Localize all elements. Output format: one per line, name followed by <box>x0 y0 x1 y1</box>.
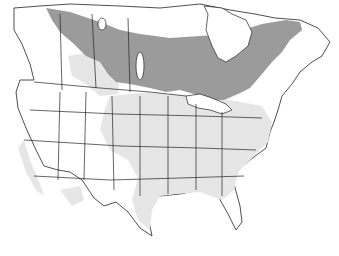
range-map <box>0 0 339 256</box>
north-america-map-svg <box>0 0 339 256</box>
lake-winnipeg <box>136 52 144 80</box>
great-slave-lake <box>98 18 106 30</box>
wintering-range-south <box>60 186 84 206</box>
